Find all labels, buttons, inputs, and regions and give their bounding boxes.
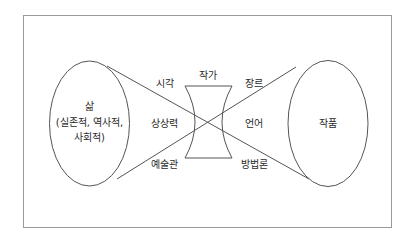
work-title: 작품	[319, 118, 337, 129]
cross-line-ascending	[117, 67, 296, 179]
label-imagination: 상상력	[151, 118, 178, 129]
label-language: 언어	[245, 118, 263, 129]
label-perspective: 시각	[156, 78, 174, 89]
label-genre: 장르	[245, 78, 263, 89]
life-subtitle-line2: 사회적)	[74, 132, 105, 143]
diagram-canvas: 삶 (실존적, 역사적, 사회적) 작품 작가 시각 상상력 예술관 장르 언어…	[0, 0, 413, 244]
label-art-view: 예술관	[151, 159, 178, 170]
label-methodology: 방법론	[241, 159, 268, 170]
life-subtitle-line1: (실존적, 역사적,	[56, 117, 123, 128]
life-title: 삶	[85, 101, 94, 112]
author-title: 작가	[199, 70, 217, 81]
